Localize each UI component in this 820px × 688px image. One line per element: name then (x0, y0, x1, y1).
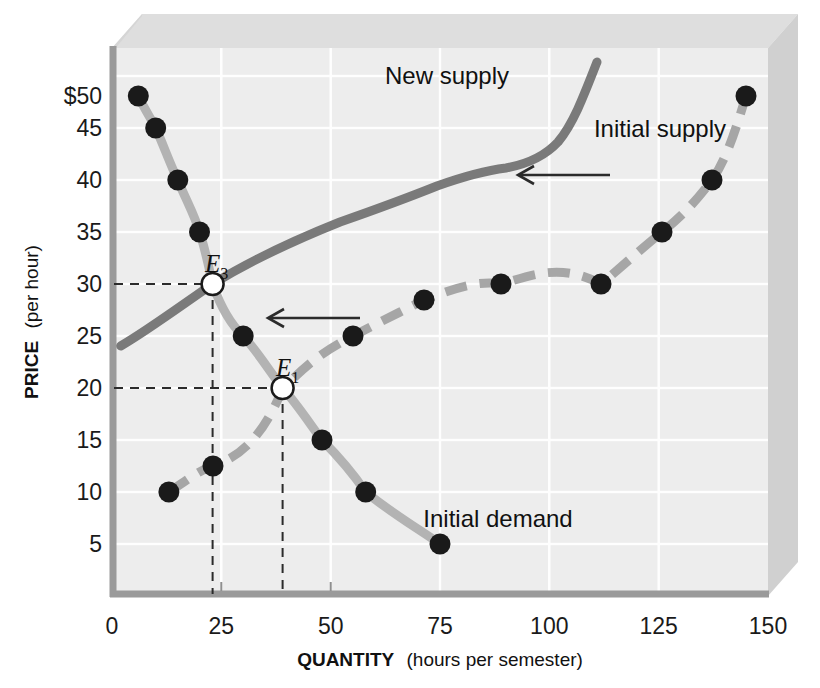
equilibrium-label-e1-letter: E (275, 354, 291, 381)
label-initial-demand: Initial demand (423, 505, 572, 532)
data-point (414, 290, 435, 311)
x-tick-label: 0 (106, 613, 119, 639)
data-point (145, 118, 166, 139)
y-tick-label: 20 (76, 375, 102, 401)
label-new-supply: New supply (385, 62, 509, 89)
data-point (736, 86, 757, 107)
y-tick-label: 15 (76, 427, 102, 453)
x-axis-title: QUANTITY (hours per semester) (297, 649, 583, 670)
svg-text:QUANTITY (hours per se: QUANTITY (hours per semester) (297, 649, 583, 670)
y-tick-label: 30 (76, 271, 102, 297)
x-tick-label: 100 (530, 613, 568, 639)
data-point (128, 86, 149, 107)
data-point (203, 456, 224, 477)
x-tick-label: 150 (749, 613, 787, 639)
y-axis-title-bold: PRICE (21, 341, 42, 399)
y-axis-title-paren: (per hour) (21, 245, 42, 328)
y-tick-label: 40 (76, 167, 102, 193)
data-point (343, 326, 364, 347)
label-initial-supply: Initial supply (594, 115, 726, 142)
data-point (591, 274, 612, 295)
equilibrium-label-e1-sub: 1 (291, 369, 299, 386)
y-axis-tick-labels: $50 45 40 35 30 25 20 15 10 5 (64, 83, 102, 557)
data-point (189, 222, 210, 243)
equilibrium-label-e3-sub: 3 (220, 265, 228, 282)
data-point (312, 430, 333, 451)
x-tick-label: 25 (209, 613, 235, 639)
x-tick-label: 125 (640, 613, 678, 639)
data-point (491, 274, 512, 295)
data-point (702, 170, 723, 191)
y-axis-title: PRICE (per hour) (21, 245, 42, 399)
y-tick-label: 35 (76, 219, 102, 245)
y-tick-label: 45 (76, 115, 102, 141)
y-tick-label: 25 (76, 323, 102, 349)
y-tick-label: 10 (76, 479, 102, 505)
supply-demand-chart: $50 45 40 35 30 25 20 15 10 5 0 25 50 75… (0, 0, 820, 688)
data-point (158, 482, 179, 503)
x-axis-tick-labels: 0 25 50 75 100 125 150 (106, 613, 788, 639)
y-tick-label: 5 (89, 531, 102, 557)
data-point (430, 534, 451, 555)
x-axis-title-bold: QUANTITY (297, 649, 394, 670)
data-point (355, 482, 376, 503)
svg-text:PRICE (per hour): PRICE (per hour) (21, 245, 42, 399)
economics-supply-demand-figure: $50 45 40 35 30 25 20 15 10 5 0 25 50 75… (0, 0, 820, 688)
y-tick-label: $50 (64, 83, 102, 109)
x-axis-title-paren: (hours per semester) (407, 649, 583, 670)
x-tick-label: 75 (427, 613, 453, 639)
data-point (167, 170, 188, 191)
data-point (652, 222, 673, 243)
x-tick-label: 50 (318, 613, 344, 639)
data-point (233, 326, 254, 347)
equilibrium-label-e3-letter: E (204, 250, 220, 277)
